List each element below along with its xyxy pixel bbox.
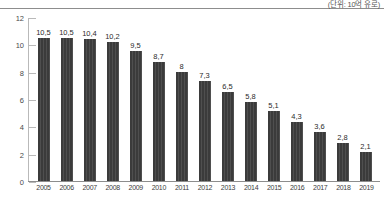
- bar-value-label: 5,8: [245, 92, 255, 101]
- bar: 6,5: [222, 92, 234, 181]
- bar-value-label: 10,5: [59, 28, 74, 37]
- bar-slot: 10,4: [78, 18, 101, 181]
- bar-series: 10,510,510,410,29,58,787,36,55,85,14,33,…: [29, 18, 380, 181]
- bar: 7,3: [199, 81, 211, 181]
- bar: 10,5: [61, 38, 73, 182]
- bar: 4,3: [291, 122, 303, 181]
- plot-area: 12 10 8 6 4 2 0 10,510,510,410,29,58,787…: [28, 18, 380, 182]
- bar-slot: 5,1: [262, 18, 285, 181]
- x-tick-label: 2013: [217, 184, 240, 191]
- bar-slot: 10,5: [32, 18, 55, 181]
- bar: 10,4: [84, 39, 96, 181]
- x-tick-label: 2016: [286, 184, 309, 191]
- bar-slot: 10,5: [55, 18, 78, 181]
- x-tick-label: 2012: [193, 184, 216, 191]
- x-tick-label: 2018: [332, 184, 355, 191]
- bar: 2,8: [337, 143, 349, 181]
- x-tick-label: 2019: [355, 184, 378, 191]
- bar-value-label: 2,1: [360, 142, 370, 151]
- y-tick-label: 6: [2, 96, 24, 105]
- y-tick-label: 12: [2, 14, 24, 23]
- bar: 8,7: [153, 62, 165, 181]
- bar-slot: 10,2: [101, 18, 124, 181]
- x-tick-label: 2015: [263, 184, 286, 191]
- bar-slot: 2,8: [331, 18, 354, 181]
- x-tick-label: 2014: [240, 184, 263, 191]
- x-tick-label: 2005: [32, 184, 55, 191]
- bar: 8: [176, 72, 188, 181]
- header-divider: [0, 8, 384, 9]
- bar: 9,5: [130, 51, 142, 181]
- bar: 2,1: [360, 152, 372, 181]
- bar-value-label: 10,4: [82, 29, 97, 38]
- bar-slot: 8: [170, 18, 193, 181]
- bar-slot: 7,3: [193, 18, 216, 181]
- chart-screenshot: (단위: 10억 유로) 12 10 8 6 4 2 0 10,510,510,…: [0, 0, 384, 212]
- bar: 5,1: [268, 111, 280, 181]
- bar-value-label: 8,7: [153, 52, 163, 61]
- bar-value-label: 10,2: [105, 32, 120, 41]
- x-axis-baseline: [28, 181, 380, 182]
- y-tick-label: 0: [2, 178, 24, 187]
- x-tick-label: 2017: [309, 184, 332, 191]
- x-tick-label: 2007: [78, 184, 101, 191]
- x-axis-labels: 2005200620072008200920102011201220132014…: [29, 184, 381, 191]
- x-tick-label: 2009: [124, 184, 147, 191]
- bar-value-label: 2,8: [337, 133, 347, 142]
- bar-slot: 4,3: [285, 18, 308, 181]
- bar-value-label: 5,1: [268, 101, 278, 110]
- bar-slot: 5,8: [239, 18, 262, 181]
- bar-value-label: 8: [179, 62, 183, 71]
- x-tick-label: 2011: [170, 184, 193, 191]
- bar: 10,2: [107, 42, 119, 181]
- bar-slot: 2,1: [354, 18, 377, 181]
- bar: 5,8: [245, 102, 257, 181]
- y-tick-label: 2: [2, 150, 24, 159]
- bar-slot: 9,5: [124, 18, 147, 181]
- bar-value-label: 7,3: [199, 71, 209, 80]
- bar-slot: 6,5: [216, 18, 239, 181]
- x-tick-label: 2008: [101, 184, 124, 191]
- bar-slot: 8,7: [147, 18, 170, 181]
- bar-value-label: 9,5: [130, 41, 140, 50]
- bar: 3,6: [314, 132, 326, 181]
- x-tick-label: 2006: [55, 184, 78, 191]
- bar-value-label: 4,3: [291, 112, 301, 121]
- bar-value-label: 3,6: [314, 122, 324, 131]
- x-tick-label: 2010: [147, 184, 170, 191]
- bar-slot: 3,6: [308, 18, 331, 181]
- bar-value-label: 6,5: [222, 82, 232, 91]
- y-tick-label: 10: [2, 41, 24, 50]
- y-tick-label: 4: [2, 123, 24, 132]
- bar-value-label: 10,5: [36, 28, 51, 37]
- y-tick-label: 8: [2, 68, 24, 77]
- unit-label: (단위: 10억 유로): [328, 0, 380, 9]
- bar: 10,5: [38, 38, 50, 182]
